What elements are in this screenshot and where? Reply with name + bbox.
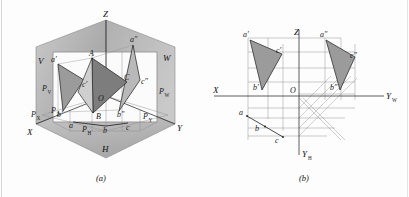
figure-root: Z X Y O V W H P V P W P H P X	[0, 0, 409, 197]
label-c-top-b: c	[275, 136, 279, 145]
label-b-top-a: b	[103, 126, 107, 135]
svg-text:Y: Y	[149, 117, 153, 123]
svg-text:P: P	[158, 87, 164, 96]
label-origin-b: O	[290, 86, 296, 95]
svg-text:P: P	[50, 106, 56, 115]
label-axis-yh-b: Y H	[302, 149, 312, 161]
label-axis-y-a: Y	[177, 123, 183, 133]
label-axis-yw-b: Y W	[386, 91, 397, 103]
label-axis-z-a: Z	[103, 9, 109, 19]
label-c-front-a: c′	[82, 80, 88, 89]
label-a-top-b: a	[239, 108, 243, 117]
svg-text:H: H	[88, 130, 92, 136]
label-c-side-a: c″	[141, 77, 149, 86]
svg-text:W: W	[392, 97, 397, 103]
svg-text:P: P	[142, 112, 148, 121]
label-a-top-a: a	[69, 121, 73, 130]
svg-text:P: P	[41, 84, 47, 93]
panel-a-group: Z X Y O V W H P V P W P H P X	[26, 9, 183, 183]
label-axis-x-b: X	[212, 85, 219, 95]
label-a-side-b: a″	[320, 30, 328, 39]
label-b-side-b: b″	[330, 83, 338, 92]
label-a-front-b: a′	[243, 30, 249, 39]
point-c-top-marker-b	[282, 136, 284, 138]
label-axis-x-a: X	[26, 127, 33, 137]
figure-canvas: Z X Y O V W H P V P W P H P X	[0, 0, 409, 197]
svg-text:X: X	[37, 115, 41, 121]
label-A-space: A	[88, 49, 94, 58]
caption-b: (b)	[299, 173, 309, 183]
label-a-side-a: a″	[130, 35, 138, 44]
label-a-front-a: a′	[51, 55, 57, 64]
label-c-side-b: c″	[350, 51, 358, 60]
svg-text:W: W	[165, 92, 170, 98]
label-b-front-a: b′	[57, 110, 63, 119]
label-origin-a: O	[98, 94, 104, 103]
label-b-top-b: b	[255, 124, 259, 133]
label-c-front-b: c′	[276, 46, 282, 55]
svg-text:V: V	[48, 89, 52, 95]
svg-text:P: P	[81, 125, 87, 134]
caption-a: (a)	[96, 173, 106, 183]
point-a-top-marker-b	[246, 115, 248, 117]
axes-b	[214, 30, 384, 155]
label-c-top-a: c	[126, 123, 130, 132]
label-plane-h: H	[101, 144, 109, 154]
point-b-top-marker-b	[264, 126, 266, 128]
label-C-space: C	[124, 73, 130, 82]
svg-text:P: P	[30, 110, 36, 119]
label-B-space: B	[96, 112, 101, 121]
svg-text:H: H	[308, 155, 312, 161]
label-b-side-a: b″	[117, 110, 125, 119]
panel-b-group: Z X Y W Y H O a′ b′ c′ a″ b″ c″ a b c (b…	[212, 27, 397, 183]
label-b-front-b: b′	[253, 83, 259, 92]
